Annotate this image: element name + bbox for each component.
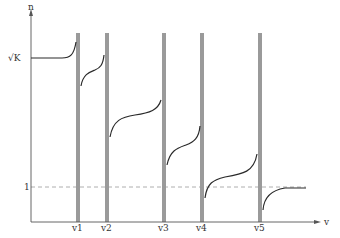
- resonance-bar-v1: [76, 33, 80, 222]
- resonance-label-v2: v2: [100, 223, 112, 233]
- y-axis-label: n: [28, 2, 34, 12]
- x-axis-label: v: [323, 217, 330, 227]
- curve-segment-1: [81, 55, 104, 86]
- curve-segment-3: [167, 126, 200, 165]
- resonance-label-v3: v3: [157, 223, 169, 233]
- curve-segment-2: [110, 100, 161, 137]
- resonance-bar-v5: [258, 33, 262, 222]
- dispersion-diagram: n v √K 1 v1 v2 v3 v4 v5: [0, 0, 340, 238]
- resonance-label-v5: v5: [253, 223, 265, 233]
- curve-segment-0: [31, 42, 76, 58]
- sqrt-k-label: √K: [8, 53, 21, 63]
- resonance-label-v1: v1: [71, 223, 83, 233]
- dispersion-curves: [31, 42, 306, 210]
- curve-segment-4: [205, 154, 257, 198]
- resonance-bars: [76, 33, 262, 222]
- resonance-label-v4: v4: [195, 223, 207, 233]
- resonance-bar-v4: [200, 33, 204, 222]
- resonance-bar-v2: [105, 33, 109, 222]
- resonance-bar-v3: [162, 33, 166, 222]
- unity-label: 1: [24, 182, 30, 192]
- curve-segment-5: [263, 188, 306, 210]
- x-axis-arrow-icon: [314, 220, 321, 224]
